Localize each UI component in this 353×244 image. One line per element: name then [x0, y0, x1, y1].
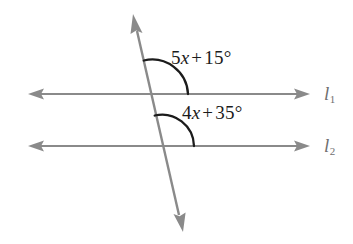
transversal-bottom-arrowhead	[174, 213, 186, 233]
angle-bottom-coefficient: 4	[182, 102, 192, 123]
line-label-l1: l1	[324, 83, 335, 105]
angle-top-coefficient: 5	[171, 47, 181, 68]
angle-top-constant: 15	[204, 47, 223, 68]
line-label-l2-name: l	[324, 135, 329, 156]
line-label-l1-name: l	[324, 83, 329, 104]
angle-label-top: 5x+15°	[171, 47, 231, 69]
line-l1	[28, 89, 310, 100]
angle-bottom-constant: 35	[215, 102, 234, 123]
transversal-top-arrowhead	[131, 14, 143, 34]
angle-bottom-degree-symbol: °	[235, 102, 243, 123]
angle-bottom-operator: +	[200, 102, 215, 123]
angle-top-degree-symbol: °	[224, 47, 232, 68]
angle-label-bottom: 4x+35°	[182, 102, 242, 124]
line-label-l2: l2	[324, 135, 335, 157]
line-l2	[28, 141, 310, 152]
line-label-l1-subscript: 1	[330, 93, 336, 105]
geometry-figure	[0, 0, 353, 244]
angle-top-operator: +	[189, 47, 204, 68]
line-label-l2-subscript: 2	[330, 145, 336, 157]
